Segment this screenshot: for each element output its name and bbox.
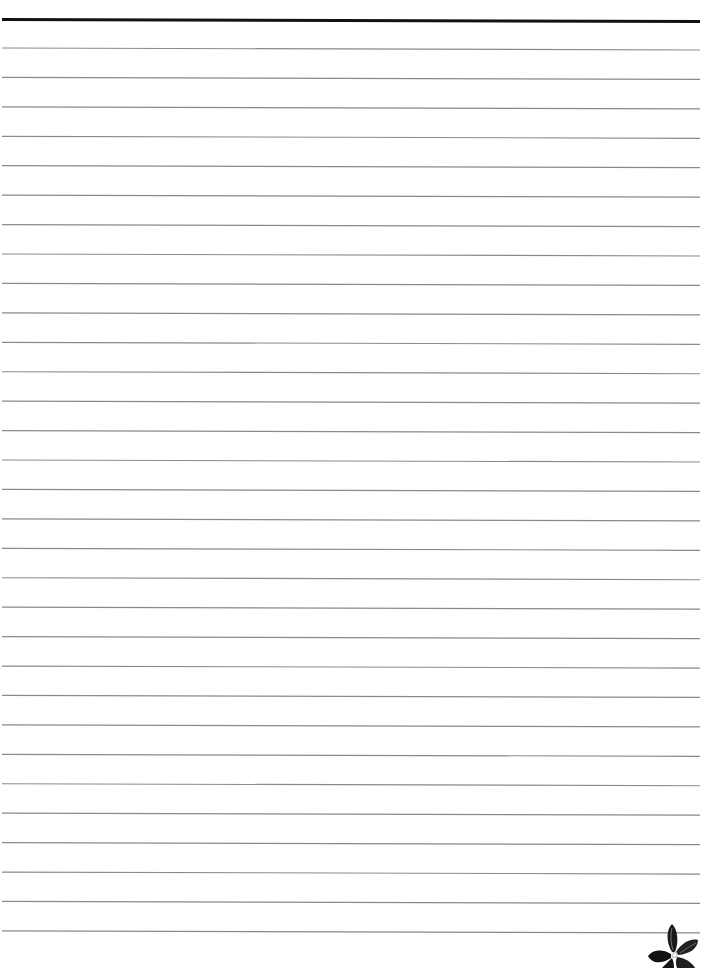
ruled-line — [2, 48, 700, 50]
ruled-line — [2, 254, 700, 256]
ruled-line — [2, 901, 700, 903]
ruled-line — [2, 136, 700, 138]
ruled-line — [2, 607, 700, 609]
ruled-line — [2, 872, 700, 874]
ruled-line — [2, 225, 700, 227]
ruled-line — [2, 401, 700, 403]
ruled-line — [2, 695, 700, 697]
ruled-line — [2, 813, 700, 815]
ruled-line — [2, 342, 700, 344]
ruled-line — [2, 666, 700, 668]
ruled-line — [2, 77, 700, 79]
ruled-line — [2, 372, 700, 374]
ruled-line — [2, 431, 700, 433]
ruled-line — [2, 843, 700, 845]
ruled-line — [2, 460, 700, 462]
ruled-line — [2, 313, 700, 315]
ruled-line — [2, 548, 700, 550]
ruled-line — [2, 283, 700, 285]
ruled-line — [2, 489, 700, 491]
ruled-line — [2, 519, 700, 521]
ruled-line — [2, 195, 700, 197]
header-rule — [2, 20, 700, 22]
ruled-line — [2, 166, 700, 168]
ruled-line — [2, 637, 700, 639]
ruled-line — [2, 107, 700, 109]
ruled-line — [2, 725, 700, 727]
ruled-line — [2, 578, 700, 580]
ruled-line — [2, 784, 700, 786]
ruled-line — [2, 931, 700, 933]
ruled-line — [2, 754, 700, 756]
flower-icon — [648, 918, 702, 968]
